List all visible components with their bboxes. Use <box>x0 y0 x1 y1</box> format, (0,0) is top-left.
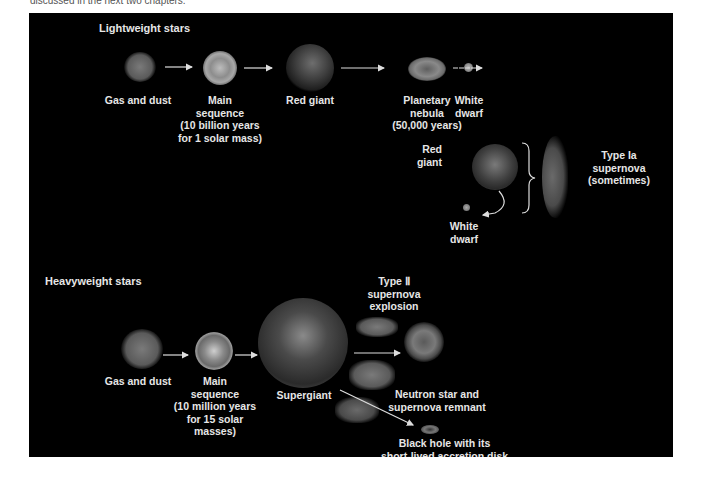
arrow-to-black-hole <box>340 390 413 425</box>
top-caption: discussed in the next two chapters. <box>30 0 186 6</box>
brace-binary <box>522 143 535 213</box>
arrow-binary-transfer <box>483 191 504 215</box>
arrows-layer <box>29 13 673 457</box>
stellar-evolution-panel: Lightweight stars Gas and dust Main sequ… <box>29 13 673 457</box>
